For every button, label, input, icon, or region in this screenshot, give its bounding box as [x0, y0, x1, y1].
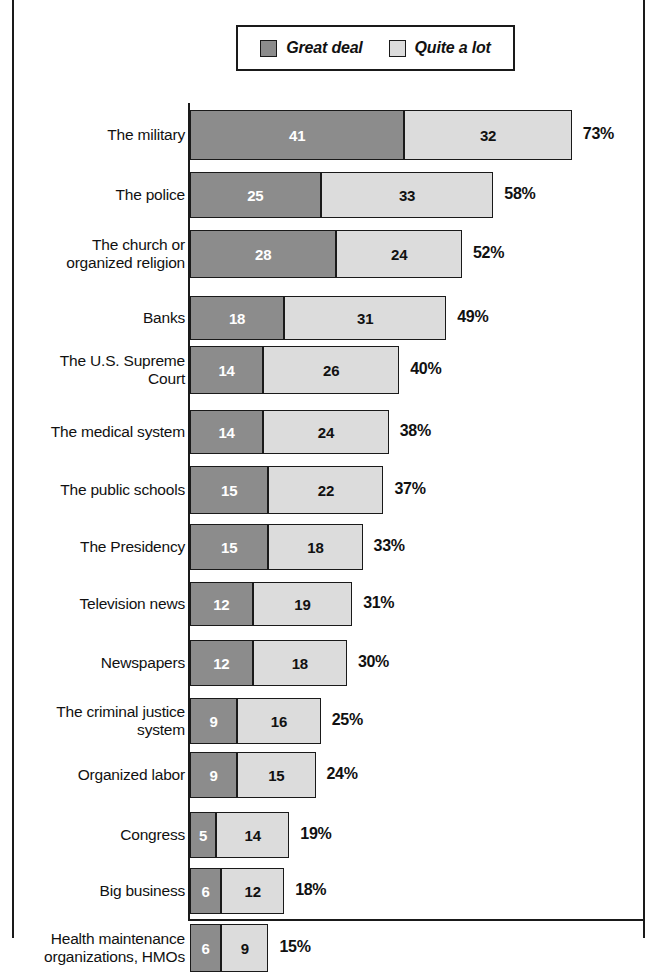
bar-segment-great-deal: 14 — [190, 410, 263, 454]
bar-row: Big business61218% — [0, 868, 655, 914]
category-label: The police — [10, 186, 185, 204]
category-label-line: Television news — [10, 595, 185, 613]
bar-segment-great-deal: 14 — [190, 346, 263, 394]
legend-label-quite-a-lot: Quite a lot — [415, 39, 491, 57]
bar-total-label: 24% — [327, 765, 358, 783]
category-label-line: The military — [10, 126, 185, 144]
bar-total-label: 58% — [504, 185, 535, 203]
bar-segment-quite-a-lot: 15 — [237, 752, 315, 798]
bar-segment-great-deal: 18 — [190, 296, 284, 340]
category-label: The Presidency — [10, 538, 185, 556]
category-label-line: organizations, HMOs — [10, 948, 185, 966]
category-label: The public schools — [10, 481, 185, 499]
bar-total-label: 18% — [295, 881, 326, 899]
bar-segment-great-deal: 25 — [190, 172, 321, 218]
bar-row: The police253358% — [0, 172, 655, 218]
bar-row: Banks183149% — [0, 296, 655, 340]
bar-row: Congress51419% — [0, 812, 655, 858]
stacked-bar: 514 — [190, 812, 289, 858]
value-axis-baseline — [188, 919, 645, 921]
category-label-line: Organized labor — [10, 766, 185, 784]
category-label: Banks — [10, 309, 185, 327]
bar-segment-quite-a-lot: 18 — [253, 640, 347, 686]
stacked-bar: 1522 — [190, 466, 383, 514]
category-label-line: Newspapers — [10, 654, 185, 672]
bar-total-label: 49% — [457, 308, 488, 326]
category-label-line: The police — [10, 186, 185, 204]
bar-row: The public schools152237% — [0, 466, 655, 514]
stacked-bar: 1424 — [190, 410, 389, 454]
bar-row: Organized labor91524% — [0, 752, 655, 798]
bar-row: The U.S. SupremeCourt142640% — [0, 346, 655, 394]
bar-segment-quite-a-lot: 22 — [268, 466, 383, 514]
bar-segment-great-deal: 9 — [190, 698, 237, 744]
bar-segment-quite-a-lot: 32 — [404, 110, 571, 160]
category-label: Big business — [10, 882, 185, 900]
category-label-line: The Presidency — [10, 538, 185, 556]
category-label: Organized labor — [10, 766, 185, 784]
stacked-bar: 612 — [190, 868, 284, 914]
bar-segment-quite-a-lot: 24 — [336, 230, 462, 278]
bar-row: The criminal justicesystem91625% — [0, 698, 655, 744]
bar-segment-quite-a-lot: 33 — [321, 172, 494, 218]
category-label: The criminal justicesystem — [10, 703, 185, 739]
bar-segment-quite-a-lot: 14 — [216, 812, 289, 858]
bar-total-label: 25% — [332, 711, 363, 729]
bar-row: Health maintenanceorganizations, HMOs691… — [0, 924, 655, 972]
bar-segment-great-deal: 28 — [190, 230, 336, 278]
legend-swatch-icon-quite-a-lot — [389, 40, 406, 57]
category-label: Newspapers — [10, 654, 185, 672]
category-label-line: system — [10, 721, 185, 739]
bar-segment-quite-a-lot: 18 — [268, 524, 362, 570]
stacked-bar: 2533 — [190, 172, 493, 218]
bar-segment-great-deal: 6 — [190, 924, 221, 972]
bar-total-label: 15% — [279, 938, 310, 956]
chart-legend: Great deal Quite a lot — [236, 25, 515, 71]
category-label-line: The criminal justice — [10, 703, 185, 721]
category-label-line: organized religion — [10, 254, 185, 272]
bar-segment-great-deal: 9 — [190, 752, 237, 798]
stacked-bar: 1426 — [190, 346, 399, 394]
bar-total-label: 31% — [363, 594, 394, 612]
stacked-bar: 915 — [190, 752, 316, 798]
bar-segment-great-deal: 15 — [190, 466, 268, 514]
legend-item-great-deal: Great deal — [260, 39, 362, 57]
bar-segment-great-deal: 15 — [190, 524, 268, 570]
bar-segment-great-deal: 12 — [190, 582, 253, 626]
category-label-line: Court — [10, 370, 185, 388]
category-label-line: Health maintenance — [10, 930, 185, 948]
stacked-bar: 4132 — [190, 110, 572, 160]
bar-segment-great-deal: 6 — [190, 868, 221, 914]
bar-row: Newspapers121830% — [0, 640, 655, 686]
bar-total-label: 73% — [583, 125, 614, 143]
category-label: The U.S. SupremeCourt — [10, 352, 185, 388]
bar-row: Television news121931% — [0, 582, 655, 626]
bar-segment-quite-a-lot: 16 — [237, 698, 321, 744]
bar-segment-great-deal: 12 — [190, 640, 253, 686]
legend-label-great-deal: Great deal — [286, 39, 362, 57]
category-label-line: The public schools — [10, 481, 185, 499]
bar-segment-quite-a-lot: 9 — [221, 924, 268, 972]
category-label-line: The medical system — [10, 423, 185, 441]
stacked-bar: 916 — [190, 698, 321, 744]
legend-swatch-icon-great-deal — [260, 40, 277, 57]
bar-segment-quite-a-lot: 24 — [263, 410, 389, 454]
bar-total-label: 38% — [400, 422, 431, 440]
category-label: The medical system — [10, 423, 185, 441]
category-label: Television news — [10, 595, 185, 613]
bar-total-label: 19% — [300, 825, 331, 843]
bar-segment-quite-a-lot: 19 — [253, 582, 352, 626]
category-label: The military — [10, 126, 185, 144]
bar-segment-quite-a-lot: 26 — [263, 346, 399, 394]
bar-segment-great-deal: 41 — [190, 110, 404, 160]
category-label: The church ororganized religion — [10, 236, 185, 272]
bar-row: The Presidency151833% — [0, 524, 655, 570]
bar-row: The medical system142438% — [0, 410, 655, 454]
category-label: Congress — [10, 826, 185, 844]
chart-plot-area: The military413273%The police253358%The … — [0, 100, 655, 926]
category-label-line: Banks — [10, 309, 185, 327]
bar-total-label: 33% — [374, 537, 405, 555]
stacked-bar: 2824 — [190, 230, 462, 278]
bar-row: The church ororganized religion282452% — [0, 230, 655, 278]
stacked-bar: 1831 — [190, 296, 446, 340]
